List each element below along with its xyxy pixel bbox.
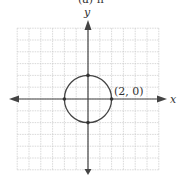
point-0-neg2 (86, 121, 90, 125)
y-axis-down-arrow-icon (85, 169, 92, 175)
graph-figure: x y (2, 0) (a) h (0, 0, 181, 175)
point-label: (2, 0) (114, 85, 144, 98)
x-axis-label: x (170, 93, 177, 106)
point-0-2 (86, 74, 90, 78)
point-2-0 (110, 97, 114, 101)
y-axis-up-arrow-icon (85, 20, 92, 30)
x-axis-right-arrow-icon (157, 96, 167, 103)
point-neg2-0 (63, 97, 67, 101)
top-partial-caption: (a) h (78, 0, 104, 6)
y-axis-label: y (83, 6, 91, 19)
x-axis-left-arrow-icon (9, 96, 19, 103)
